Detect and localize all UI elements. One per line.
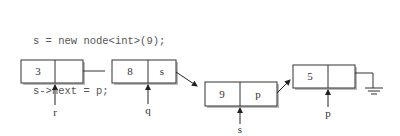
pointer-q-label: q bbox=[145, 104, 151, 116]
node-3-value: 9 bbox=[219, 88, 225, 100]
pointer-r-label: r bbox=[53, 106, 57, 118]
pointer-s-label: s bbox=[238, 123, 242, 135]
pointer-p-label: p bbox=[325, 107, 331, 119]
node-2-value: 8 bbox=[127, 65, 133, 77]
linked-list-diagram: 3 r 8 s q 9 p s 5 p bbox=[0, 0, 400, 136]
node-3: 9 p s bbox=[205, 80, 290, 135]
ground-null-icon bbox=[355, 73, 383, 94]
node-1-value: 3 bbox=[35, 65, 41, 77]
node-1: 3 r bbox=[21, 60, 105, 118]
node-3-next-label: p bbox=[255, 88, 261, 100]
node-4-value: 5 bbox=[307, 70, 313, 82]
node-4: 5 p bbox=[293, 65, 357, 119]
node-2: 8 s q bbox=[112, 60, 197, 116]
node-2-next-label: s bbox=[160, 65, 164, 77]
